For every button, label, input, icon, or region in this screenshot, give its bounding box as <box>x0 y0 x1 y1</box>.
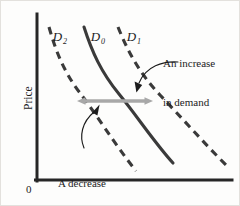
decrease-in-demand-label: A decrease in demand <box>58 151 106 206</box>
curve-label-d1: D1 <box>113 16 141 57</box>
curve-label-d1-subscript: 1 <box>137 37 141 46</box>
increase-label-line2: in demand <box>163 96 215 109</box>
origin-label: 0 <box>26 184 32 196</box>
curve-label-d2-subscript: 2 <box>63 37 67 46</box>
increase-in-demand-label: An increase in demand <box>163 31 215 135</box>
increase-label-line1: An increase <box>163 57 215 70</box>
y-axis-label: Price <box>22 86 34 110</box>
decrease-label-line1: A decrease <box>58 177 106 190</box>
curve-label-d0: D0 <box>77 16 105 57</box>
curve-label-d0-letter: D <box>91 29 101 44</box>
curve-label-d2: D2 <box>39 16 67 57</box>
curve-label-d0-subscript: 0 <box>101 37 105 46</box>
curve-label-d2-letter: D <box>53 29 63 44</box>
demand-shift-figure: D2 D0 D1 An increase in demand A decreas… <box>0 0 240 206</box>
curve-label-d1-letter: D <box>127 29 137 44</box>
